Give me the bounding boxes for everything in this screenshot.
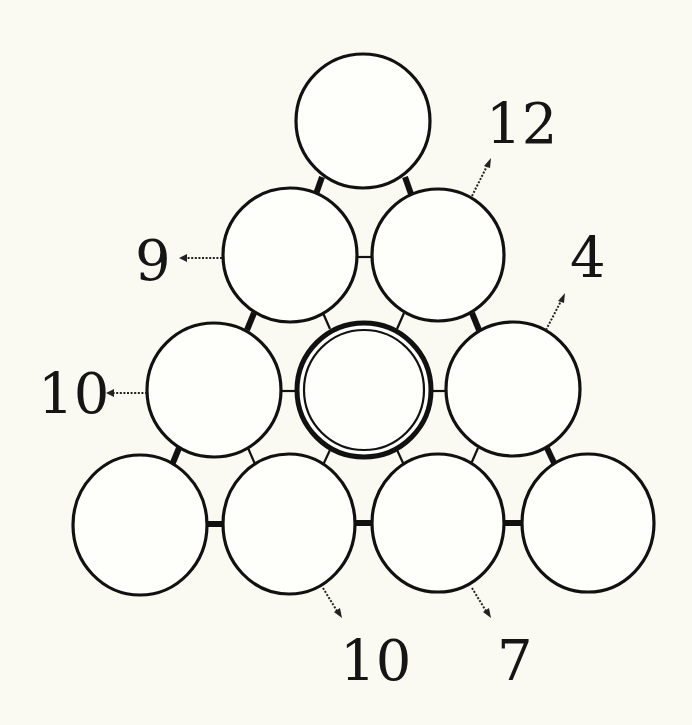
- nodes: [73, 54, 654, 595]
- link-r1c1-r2c1: [316, 177, 322, 194]
- arrow-icon: [106, 389, 147, 397]
- node-r3c2-highlighted[interactable]: [297, 323, 431, 457]
- arrow-icon: [546, 293, 565, 330]
- arrow-icon: [323, 588, 342, 618]
- link-r1c1-r2c2: [405, 177, 411, 194]
- highlight-outer-ring: [297, 323, 431, 457]
- node-r2c1[interactable]: [223, 188, 357, 322]
- link-r3c3-r4c3: [471, 448, 478, 464]
- clue-label-4: 4: [570, 225, 606, 290]
- link-r3c1-r4c2: [248, 448, 255, 464]
- clue-label-12: 12: [486, 91, 557, 156]
- clue-label-9: 9: [135, 228, 171, 293]
- clue-label-10-bottom: 10: [340, 628, 411, 693]
- link-r2c2-r3c2: [397, 313, 404, 329]
- node-r3c1[interactable]: [147, 323, 281, 457]
- puzzle-canvas: 12 9 4 10 10 7: [0, 0, 692, 725]
- node-r4c1[interactable]: [73, 455, 207, 595]
- clue-label-7: 7: [497, 628, 533, 693]
- arrow-icon: [472, 588, 491, 618]
- node-r4c4[interactable]: [522, 454, 654, 592]
- arrow-icon: [472, 158, 491, 196]
- arrow-icon: [179, 254, 222, 262]
- node-r1c1[interactable]: [296, 54, 430, 188]
- node-r4c3[interactable]: [372, 454, 504, 592]
- link-r2c2-r3c3: [472, 313, 479, 330]
- node-r4c2[interactable]: [223, 454, 355, 594]
- link-r2c1-r3c2: [323, 313, 330, 329]
- node-r3c3[interactable]: [446, 322, 580, 456]
- link-r2c1-r3c1: [247, 313, 254, 330]
- clue-label-10-left: 10: [38, 361, 109, 426]
- puzzle-diagram: 12 9 4 10 10 7: [0, 0, 692, 725]
- node-r2c2[interactable]: [372, 189, 504, 321]
